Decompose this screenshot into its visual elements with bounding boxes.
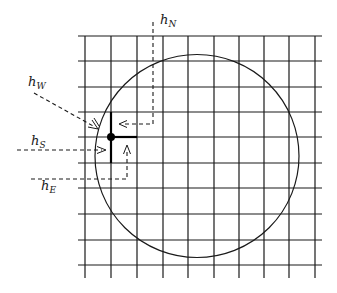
label-h-east-sub: E [48,185,56,195]
label-h-east-base: h [41,178,49,193]
h-west-dashed-path [34,93,95,127]
grid-horizontal-lines [78,36,322,265]
arrow-h-west [34,93,99,129]
grid-node-dot [107,133,115,141]
label-h-east: hE [41,178,56,195]
label-h-south-sub: S [39,140,45,150]
label-h-north-base: h [160,12,168,27]
label-h-north: hN [160,12,177,29]
grid-vertical-lines [85,36,315,278]
label-h-south-base: h [31,133,39,148]
label-h-west-base: h [28,74,36,89]
label-h-north-sub: N [167,19,177,29]
label-h-west: hW [28,74,46,91]
label-h-west-sub: W [36,81,46,91]
grid-boundary-diagram: hN hW hS hE [0,0,337,293]
h-east-dashed-path [31,150,127,179]
label-h-south: hS [31,133,46,150]
boundary-circle [95,55,299,258]
